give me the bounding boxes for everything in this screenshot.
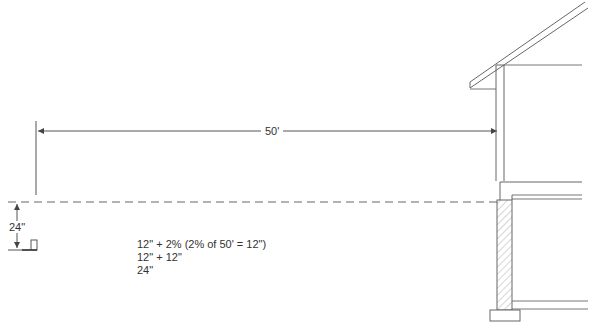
foundation-wall (497, 200, 512, 310)
dimension-label-24in: 24" (8, 221, 26, 233)
slope-calculation: 12" + 2% (2% of 50' = 12") 12" + 12" 24" (137, 238, 266, 277)
calc-line-3: 24" (137, 264, 266, 277)
dimension-label-50ft: 50' (261, 125, 283, 137)
roof-line-lower (470, 2, 585, 82)
calc-line-2: 12" + 12" (137, 251, 266, 264)
grade-stake (31, 240, 37, 250)
roof-line-upper (470, 8, 588, 88)
footing (490, 310, 520, 321)
section-drawing (0, 0, 598, 332)
calc-line-1: 12" + 2% (2% of 50' = 12") (137, 238, 266, 251)
